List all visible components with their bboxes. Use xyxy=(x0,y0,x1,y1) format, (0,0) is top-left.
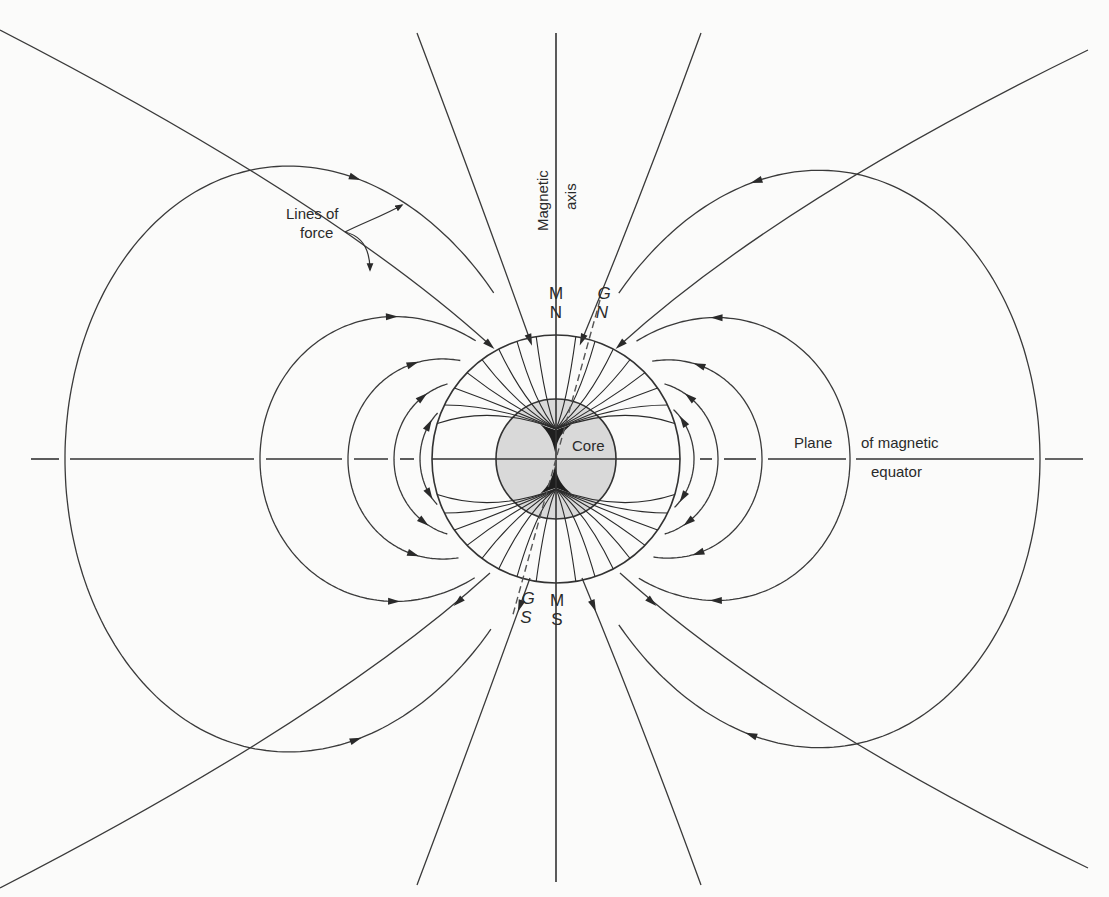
geographic-north-N: N xyxy=(592,303,612,322)
equator-label-plane: Plane xyxy=(794,434,832,451)
open-field-line-top-0 xyxy=(0,30,490,345)
magnetic-axis-label-line2: axis xyxy=(562,183,579,210)
field-arrow-icon xyxy=(711,314,723,321)
geographic-south-G: G xyxy=(518,589,538,608)
field-arrow-icon xyxy=(751,176,763,183)
open-field-line-top-3 xyxy=(620,50,1088,345)
field-arrow-icon xyxy=(694,363,706,370)
equator-label-of-magnetic: of magnetic xyxy=(861,434,939,451)
open-field-line-bottom-3 xyxy=(620,573,1088,868)
open-field-line-top-1 xyxy=(417,33,530,340)
open-field-line-bottom-2 xyxy=(582,578,701,885)
magnetic-south-M: M xyxy=(547,591,567,610)
lines-of-force-label-line1: Lines of xyxy=(286,205,339,222)
field-arrow-icon xyxy=(423,420,432,432)
open-field-line-bottom-0 xyxy=(0,573,490,888)
field-arrow-icon xyxy=(349,738,361,745)
field-arrow-icon xyxy=(386,313,398,320)
field-arrow-icon xyxy=(680,416,689,428)
magnetic-north-N: N xyxy=(546,303,566,322)
lines-of-force-label-line2: force xyxy=(300,224,333,241)
equator-label-equator: equator xyxy=(871,463,922,480)
magnetic-field-diagram xyxy=(0,0,1109,897)
magnetic-axis-label-line1: Magnetic xyxy=(534,170,551,231)
field-arrow-icon xyxy=(588,599,596,611)
magnetic-north-M: M xyxy=(546,284,566,303)
field-arrow-icon xyxy=(745,733,757,740)
geographic-south-S: S xyxy=(516,608,536,627)
magnetic-south-S: S xyxy=(547,610,567,629)
field-arrow-icon xyxy=(692,548,704,555)
field-arrow-icon xyxy=(680,490,689,502)
core-label: Core xyxy=(572,437,605,454)
field-arrow-icon xyxy=(388,598,400,605)
open-field-line-bottom-1 xyxy=(417,578,530,885)
field-arrow-icon xyxy=(348,173,360,180)
field-arrow-icon xyxy=(710,597,722,604)
geographic-north-G: G xyxy=(594,284,614,303)
field-arrow-icon xyxy=(423,487,432,499)
field-arrow-icon xyxy=(406,362,418,369)
field-arrow-icon xyxy=(407,549,419,556)
